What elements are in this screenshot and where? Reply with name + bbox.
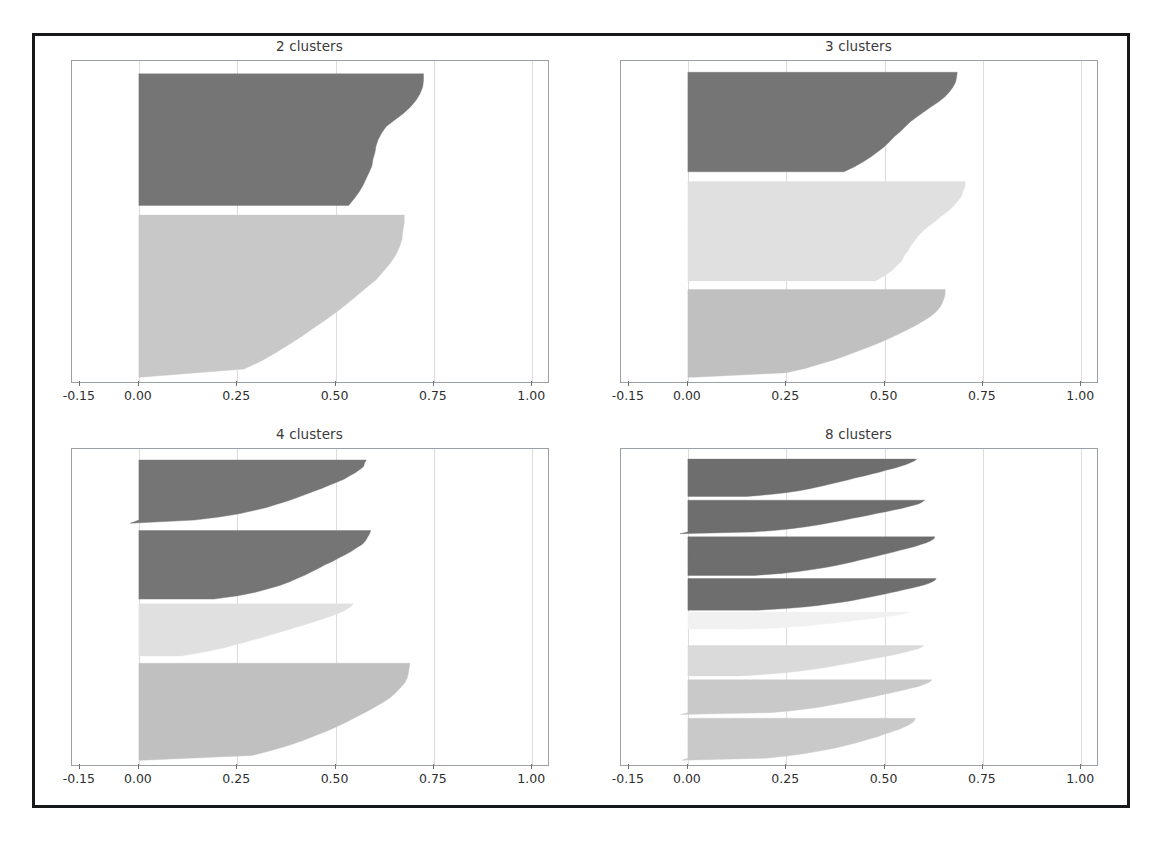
x-axis-tick-label: 0.75 [968, 389, 996, 403]
axes-2-clusters [71, 60, 549, 383]
x-axis-tick [236, 381, 237, 386]
x-axis-tick-label: 0.00 [673, 389, 701, 403]
x-axis-tick-label: 0.50 [321, 772, 349, 786]
x-axis-tick [628, 381, 629, 386]
x-axis-tick [884, 764, 885, 769]
silhouette-area-group [72, 61, 548, 382]
x-axis-tick [335, 764, 336, 769]
x-axis-tick-label: 0.50 [870, 389, 898, 403]
x-axis-tick [335, 381, 336, 386]
x-axis-tick [79, 764, 80, 769]
subplot-title-2-clusters: 2 clusters [35, 36, 584, 56]
x-axis-tick [433, 764, 434, 769]
silhouette-cluster-area [681, 680, 932, 715]
silhouette-cluster-area [139, 604, 353, 656]
silhouette-cluster-area [139, 215, 404, 377]
x-axis-tick [628, 764, 629, 769]
x-axis-tick-label: -0.15 [612, 389, 644, 403]
x-axis-tick [687, 381, 688, 386]
x-axis-tick [687, 764, 688, 769]
x-axis-tick-label: -0.15 [63, 389, 95, 403]
x-axis-tick [982, 381, 983, 386]
x-axis-tick [138, 764, 139, 769]
x-axis-tick-label: 0.75 [419, 389, 447, 403]
silhouette-area-group [621, 61, 1097, 382]
subplot-title-8-clusters: 8 clusters [584, 424, 1133, 444]
x-axis-tick [138, 381, 139, 386]
x-axis-tick-label: 0.50 [321, 389, 349, 403]
x-axis-tick [785, 764, 786, 769]
x-axis-tick-label: 1.00 [1066, 389, 1094, 403]
silhouette-cluster-area [130, 460, 366, 523]
silhouette-cluster-area [139, 74, 424, 206]
x-axis-tick [1080, 764, 1081, 769]
silhouette-cluster-area [688, 612, 909, 629]
x-axis-tick-label: 0.50 [870, 772, 898, 786]
subplot-title-3-clusters: 3 clusters [584, 36, 1133, 56]
x-axis-tick-label: 0.75 [419, 772, 447, 786]
silhouette-cluster-area [680, 500, 925, 534]
x-axis-tick [531, 764, 532, 769]
axes-8-clusters [620, 448, 1098, 766]
silhouette-cluster-area [139, 663, 410, 760]
x-axis-tick-label: 0.25 [222, 389, 250, 403]
silhouette-cluster-area [688, 290, 945, 378]
x-axis-tick [884, 381, 885, 386]
silhouette-cluster-area [688, 459, 917, 496]
x-axis-tick-label: 1.00 [1066, 772, 1094, 786]
x-axis-tick-label: 0.75 [968, 772, 996, 786]
silhouette-cluster-area [688, 181, 965, 281]
subplot-title-4-clusters: 4 clusters [35, 424, 584, 444]
silhouette-cluster-area [688, 72, 957, 171]
x-axis-tick [433, 381, 434, 386]
silhouette-cluster-area [139, 531, 371, 600]
figure-root: 2 clusters -0.150.000.250.500.751.00 3 c… [0, 0, 1165, 844]
silhouette-cluster-area [682, 718, 916, 760]
x-axis-tick-label: 0.25 [222, 772, 250, 786]
x-axis-tick-label: -0.15 [63, 772, 95, 786]
x-axis-tick [785, 381, 786, 386]
x-axis-tick [531, 381, 532, 386]
x-axis-tick-label: -0.15 [612, 772, 644, 786]
x-axis-tick-label: 1.00 [517, 389, 545, 403]
silhouette-cluster-area [688, 537, 935, 576]
axes-3-clusters [620, 60, 1098, 383]
x-axis-tick [236, 764, 237, 769]
subplot-3-clusters: 3 clusters -0.150.000.250.500.751.00 [584, 36, 1133, 424]
silhouette-area-group [72, 449, 548, 765]
x-axis-tick-label: 0.25 [771, 389, 799, 403]
x-axis-tick-label: 0.00 [673, 772, 701, 786]
x-axis-tick-label: 0.25 [771, 772, 799, 786]
figure-outer-frame: 2 clusters -0.150.000.250.500.751.00 3 c… [32, 33, 1130, 808]
subplot-8-clusters: 8 clusters -0.150.000.250.500.751.00 [584, 424, 1133, 806]
subplot-4-clusters: 4 clusters -0.150.000.250.500.751.00 [35, 424, 584, 806]
x-axis-tick [1080, 381, 1081, 386]
subplot-2-clusters: 2 clusters -0.150.000.250.500.751.00 [35, 36, 584, 424]
x-axis-tick-label: 1.00 [517, 772, 545, 786]
x-axis-tick [982, 764, 983, 769]
silhouette-cluster-area [688, 579, 936, 611]
silhouette-cluster-area [688, 646, 924, 676]
x-axis-tick-label: 0.00 [124, 389, 152, 403]
x-axis-tick-label: 0.00 [124, 772, 152, 786]
axes-4-clusters [71, 448, 549, 766]
silhouette-area-group [621, 449, 1097, 765]
x-axis-tick [79, 381, 80, 386]
